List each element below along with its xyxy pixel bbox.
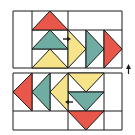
- arrow-up-icon: [126, 64, 131, 74]
- quilt-diagram: [0, 0, 135, 135]
